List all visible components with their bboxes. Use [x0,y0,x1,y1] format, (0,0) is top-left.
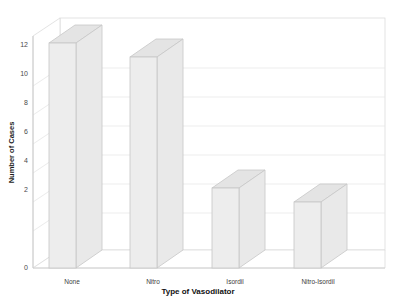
x-tick-label-none: None [42,278,102,286]
y-tick-label-0: 0 [6,264,28,271]
bar-isordil-front [212,188,239,268]
bar-nitro-front [130,57,157,268]
bar-nitro-side [157,39,183,268]
bar-none-side [76,25,102,268]
chart-container: 12 10 8 6 4 2 0 None Nitro Isordil Nitro… [0,0,396,299]
x-axis-title: Type of Vasodilator [0,287,396,296]
x-tick-label-isordil: Isordil [205,278,265,286]
bar-chart-plot [0,0,396,299]
y-axis-title: Number of Cases [7,98,16,208]
x-tick-label-nitro: Nitro [123,278,183,286]
x-tick-label-nitro-isordil: Nitro-Isordil [283,278,353,286]
bar-none-front [49,43,76,268]
bar-none[interactable] [49,25,102,268]
bar-nitro[interactable] [130,39,183,268]
bar-isordil[interactable] [212,170,265,268]
y-tick-label-12: 12 [6,41,28,48]
bar-nitro-isordil-front [294,202,321,268]
y-tick-label-10: 10 [6,70,28,77]
bar-nitro-isordil[interactable] [294,184,347,268]
